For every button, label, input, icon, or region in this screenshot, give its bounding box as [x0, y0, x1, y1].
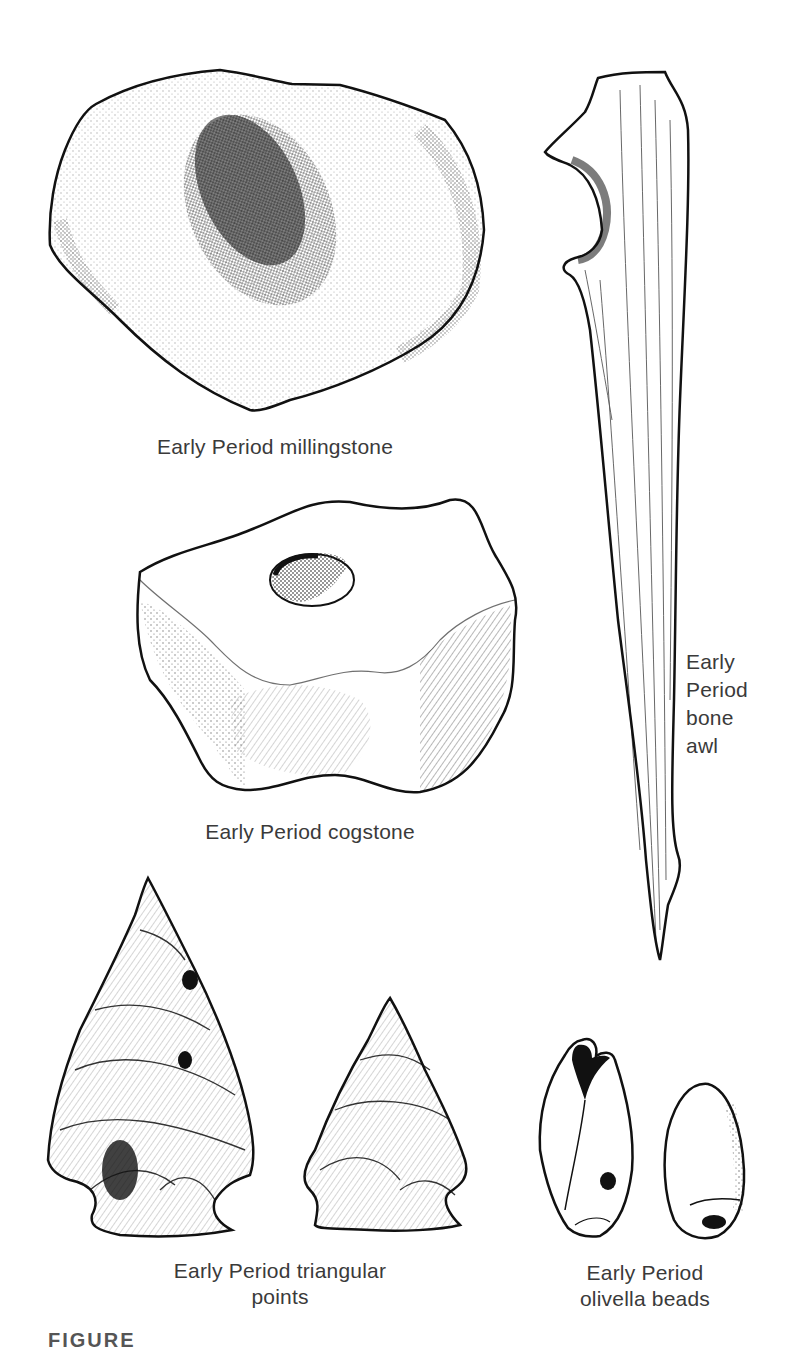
cogstone-drawing — [137, 500, 516, 793]
caption-line: awl — [686, 732, 776, 760]
caption-millingstone: Early Period millingstone — [110, 434, 440, 459]
caption-line: Early Period triangular — [130, 1258, 430, 1284]
caption-line: bone — [686, 704, 776, 732]
caption-line: Early Period millingstone — [110, 434, 440, 459]
caption-line: Early Period — [545, 1260, 745, 1286]
caption-line: olivella beads — [545, 1286, 745, 1312]
olivella-bead-1-drawing — [540, 1039, 633, 1236]
caption-line: Period — [686, 676, 776, 704]
caption-line: Early Period cogstone — [180, 819, 440, 844]
caption-line: points — [130, 1284, 430, 1310]
caption-triangular-points: Early Period triangular points — [130, 1258, 430, 1310]
caption-line: Early — [686, 648, 776, 676]
large-triangular-point-drawing — [40, 870, 260, 1240]
caption-cogstone: Early Period cogstone — [180, 819, 440, 844]
olivella-bead-2-drawing — [665, 1084, 744, 1238]
figure-label-cut-off: FIGURE — [48, 1329, 136, 1351]
bone-awl-drawing — [545, 72, 688, 960]
millingstone-drawing — [50, 70, 484, 411]
caption-bone-awl: Early Period bone awl — [686, 648, 776, 760]
caption-olivella-beads: Early Period olivella beads — [545, 1260, 745, 1312]
small-triangular-point-drawing — [300, 990, 470, 1235]
